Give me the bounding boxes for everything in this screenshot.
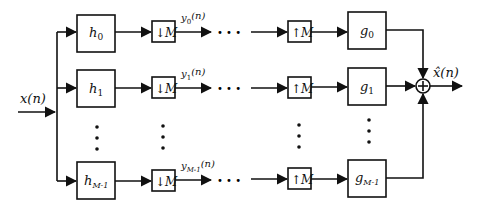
input-signal: x(n) xyxy=(18,91,55,112)
filter-bank-diagram: x(n) h0 ↓M y0(n) • • • ↑M g0 h1 ↓M y1(n)… xyxy=(0,0,478,210)
svg-text:yM-1(n): yM-1(n) xyxy=(180,158,215,174)
output-signal: x̂(n) xyxy=(430,65,462,86)
svg-text:↑M: ↑M xyxy=(291,173,314,187)
svg-text:↓M: ↓M xyxy=(155,82,178,96)
branch-m-1: hM-1 ↓M yM-1(n) • • • ↑M gM-1 xyxy=(57,94,423,199)
input-label: x(n) xyxy=(20,91,46,106)
svg-text:y0(n): y0(n) xyxy=(180,10,205,26)
output-label: x̂(n) xyxy=(433,65,459,80)
svg-text:↓M: ↓M xyxy=(155,175,178,189)
ellipsis: • • • xyxy=(217,175,241,186)
svg-text:↑M: ↑M xyxy=(291,26,314,40)
svg-text:↓M: ↓M xyxy=(155,26,178,40)
summation-node xyxy=(416,79,430,93)
vertical-ellipses xyxy=(95,118,371,151)
svg-text:y1(n): y1(n) xyxy=(180,66,205,82)
svg-text:↑M: ↑M xyxy=(291,82,314,96)
ellipsis: • • • xyxy=(217,83,241,94)
branch-1: h1 ↓M y1(n) • • • ↑M g1 xyxy=(57,66,415,107)
ellipsis: • • • xyxy=(217,27,241,38)
